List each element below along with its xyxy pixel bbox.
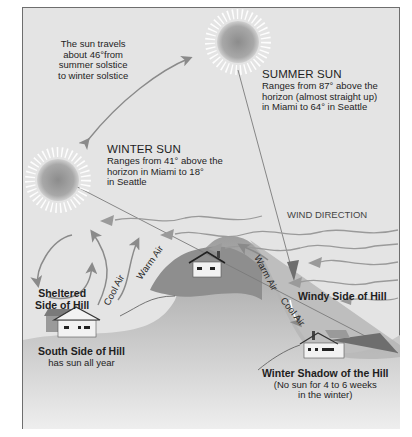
summer-sun-desc: Ranges from 87° above the	[262, 81, 378, 92]
summer-sun-title: SUMMER SUN	[262, 68, 378, 81]
south-side-title: South Side of Hill	[38, 346, 125, 358]
winter-shadow-title: Winter Shadow of the Hill	[262, 368, 389, 380]
sheltered-side-label: Sheltered Side of Hill	[35, 288, 89, 312]
winter-shadow-label: Winter Shadow of the Hill (No sun for 4 …	[262, 368, 389, 401]
summer-sun-label: SUMMER SUN Ranges from 87° above the hor…	[262, 68, 378, 113]
winter-sun-icon	[30, 152, 86, 208]
south-side-label: South Side of Hill has sun all year	[38, 346, 125, 368]
sun-travel-note: The sun travels about 46°from summer sol…	[58, 39, 128, 82]
sheltered-line: Side of Hill	[35, 300, 89, 312]
winter-sun-label: WINTER SUN Ranges from 41° above the hor…	[107, 143, 223, 188]
windy-side-label: Windy Side of Hill	[298, 291, 387, 303]
travel-note-line: to winter solstice	[58, 71, 128, 82]
summer-sun-desc: in Miami to 64° in Seattle	[262, 102, 378, 113]
south-side-sub: has sun all year	[38, 358, 125, 369]
house-sheltered	[44, 307, 100, 337]
wind-direction-label: WIND DIRECTION	[287, 210, 367, 221]
winter-sun-desc: in Seattle	[107, 177, 223, 188]
winter-sun-title: WINTER SUN	[107, 143, 223, 156]
summer-sun-icon	[210, 14, 266, 70]
sheltered-line: Sheltered	[35, 288, 89, 300]
winter-shadow-desc: in the winter)	[262, 390, 389, 401]
winter-sun-desc: Ranges from 41° above the	[107, 156, 223, 167]
